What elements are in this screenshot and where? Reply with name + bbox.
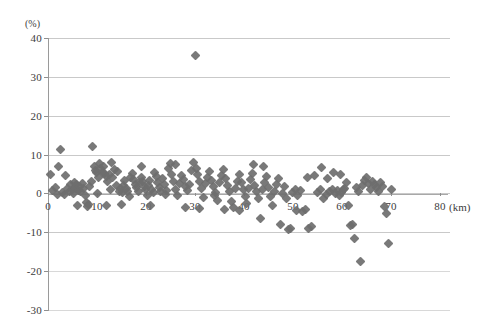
x-tickmark xyxy=(48,193,49,196)
data-point xyxy=(92,188,102,198)
y-tick-label: 0 xyxy=(4,188,42,199)
data-point xyxy=(219,204,229,214)
y-tick-label: 40 xyxy=(4,33,42,44)
data-point xyxy=(383,239,393,249)
x-axis-unit-label: (km) xyxy=(449,202,470,213)
data-point xyxy=(356,257,366,267)
data-point xyxy=(136,161,146,171)
data-point xyxy=(61,170,71,180)
data-point xyxy=(56,145,66,155)
y-tick-label: -10 xyxy=(4,227,42,238)
gridline xyxy=(48,38,450,39)
data-point xyxy=(256,214,266,224)
gridline xyxy=(48,116,450,117)
data-point xyxy=(45,169,55,179)
x-tickmark xyxy=(195,193,196,196)
data-point xyxy=(54,162,64,172)
data-point xyxy=(259,161,269,171)
plot-area: 403020100-10-20-30 01020304050607080 (km… xyxy=(0,0,485,328)
data-point xyxy=(117,199,127,209)
y-tick-label: 30 xyxy=(4,72,42,83)
y-tick-label: 20 xyxy=(4,111,42,122)
data-point xyxy=(316,163,326,173)
data-point xyxy=(190,51,200,61)
x-tick-label: 0 xyxy=(34,201,62,212)
data-point xyxy=(350,233,360,243)
y-tick-label: -30 xyxy=(4,305,42,316)
gridline xyxy=(48,155,450,156)
data-point xyxy=(249,160,259,170)
gridline xyxy=(48,310,450,311)
y-tick-label: 10 xyxy=(4,150,42,161)
gridline xyxy=(48,271,450,272)
scatter-chart: (%) 403020100-10-20-30 01020304050607080… xyxy=(0,0,485,328)
y-tick-label: -20 xyxy=(4,266,42,277)
data-point xyxy=(88,141,98,151)
gridline xyxy=(48,232,450,233)
data-point xyxy=(267,200,277,210)
gridline xyxy=(48,77,450,78)
x-tickmark xyxy=(440,193,441,196)
